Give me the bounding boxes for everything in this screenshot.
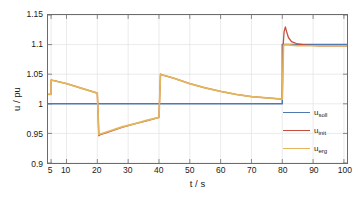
x-tick-label: 80 [278,166,287,175]
x-tick-label: 100 [338,166,352,175]
x-tick-label: 30 [123,166,132,175]
y-tick-label: 1 [38,100,43,109]
legend-swatch-erg [283,148,310,149]
y-axis-label: u / pu [11,69,22,129]
legend-swatch-init [283,130,310,131]
x-tick-label: 90 [309,166,318,175]
series-u_soll [48,45,347,104]
x-tick-label: 60 [216,166,225,175]
chart-legend: usolluinituerg [283,108,361,153]
y-tick-label: 1.05 [26,70,43,79]
x-tick-label: 5 [48,166,53,175]
legend-item-init[interactable]: uinit [283,126,361,135]
x-tick-label: 40 [154,166,163,175]
y-tick-label: 0.95 [26,130,43,139]
y-tick-label: 1.15 [26,10,43,19]
legend-label-erg: uerg [314,145,327,153]
legend-label-soll: usoll [314,109,327,117]
y-tick-label: 0.9 [31,160,43,169]
chart-figure: 0.90.9511.051.11.15 u / pu 5102030405060… [0,0,363,197]
x-tick-label: 10 [61,166,70,175]
y-tick-label: 1.1 [31,40,43,49]
x-tick-label: 70 [247,166,256,175]
legend-item-soll[interactable]: usoll [283,108,361,117]
legend-item-erg[interactable]: uerg [283,144,361,153]
x-axis-label: t / s [47,178,348,189]
legend-label-init: uinit [314,127,326,135]
legend-swatch-soll [283,112,310,113]
x-tick-label: 20 [92,166,101,175]
x-tick-label: 50 [185,166,194,175]
